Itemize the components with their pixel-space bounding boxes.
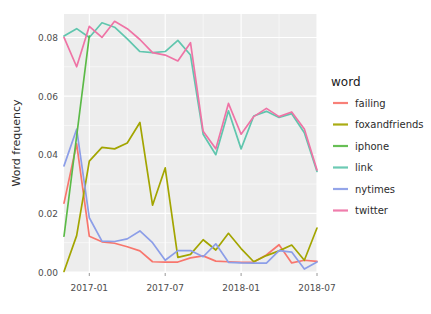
legend-item-label: foxandfriends	[355, 119, 424, 130]
x-tick-label: 2018-01	[222, 283, 260, 293]
y-tick-label: 0.04	[38, 150, 58, 160]
y-tick-label: 0.02	[38, 209, 58, 219]
y-tick-label: 0.06	[38, 92, 58, 102]
legend-item-label: iphone	[355, 141, 389, 152]
legend-item-label: failing	[355, 98, 386, 109]
y-tick-label: 0.08	[38, 33, 58, 43]
y-axis-title: Word frequency	[10, 99, 23, 186]
legend-item-label: link	[355, 162, 373, 173]
legend-title: word	[331, 75, 361, 89]
x-tick-label: 2017-01	[70, 283, 108, 293]
x-tick-label: 2017-07	[146, 283, 184, 293]
chart-container: 0.000.020.040.060.08 2017-012017-072018-…	[0, 0, 431, 314]
x-tick-label: 2018-07	[298, 283, 336, 293]
line-chart: 0.000.020.040.060.08 2017-012017-072018-…	[0, 0, 431, 314]
y-tick-label: 0.00	[38, 268, 58, 278]
legend-item-label: nytimes	[355, 184, 395, 195]
legend-item-label: twitter	[355, 205, 389, 216]
